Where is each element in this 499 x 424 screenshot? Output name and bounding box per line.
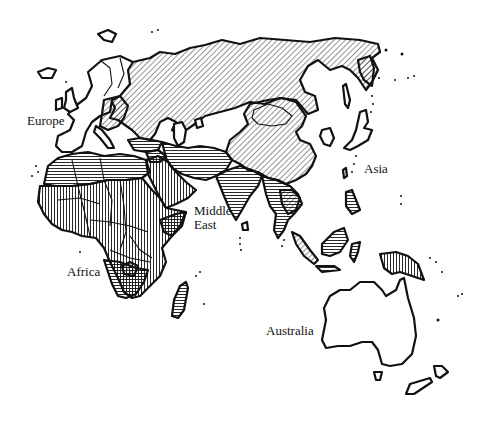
aral-sea	[195, 118, 203, 128]
label-asia: Asia	[364, 162, 388, 176]
region-philippines	[346, 190, 360, 214]
region-sulawesi	[350, 242, 360, 262]
region-taiwan	[343, 168, 347, 178]
label-middle-east-line1: Middle	[194, 204, 232, 218]
region-sri-lanka	[242, 222, 248, 230]
region-tasmania	[374, 372, 382, 380]
region-borneo	[322, 228, 348, 256]
label-europe: Europe	[27, 114, 65, 128]
label-middle-east-line2: East	[194, 218, 232, 232]
region-australia	[322, 278, 416, 366]
region-madagascar	[172, 282, 188, 318]
region-ireland	[56, 98, 62, 110]
label-australia: Australia	[266, 324, 314, 338]
world-map	[0, 0, 499, 424]
region-svalbard	[98, 30, 116, 42]
region-zimbabwe	[122, 262, 138, 276]
region-iceland	[38, 68, 56, 78]
caspian-sea	[174, 122, 186, 146]
region-new-guinea	[380, 252, 424, 280]
region-soviet-union	[110, 38, 380, 140]
region-new-zealand	[406, 366, 448, 394]
label-middle-east: Middle East	[194, 204, 232, 232]
region-iraq-levant	[146, 150, 166, 162]
region-sumatra	[292, 232, 318, 264]
region-korea	[320, 128, 334, 146]
region-japan	[344, 110, 372, 150]
label-africa: Africa	[67, 265, 100, 279]
region-sakhalin	[343, 84, 350, 108]
region-java	[316, 266, 340, 272]
region-uk	[64, 88, 78, 112]
